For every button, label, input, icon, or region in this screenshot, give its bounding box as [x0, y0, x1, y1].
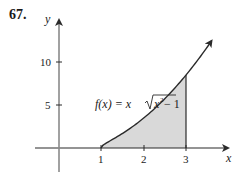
x-axis-label: x: [225, 151, 232, 165]
function-label-lhs: f(x) = x: [95, 97, 132, 111]
svg-text:1: 1: [98, 153, 104, 165]
svg-text:3: 3: [183, 153, 189, 165]
svg-text:5: 5: [45, 99, 51, 111]
shaded-area-region: [101, 75, 186, 148]
svg-text:2: 2: [141, 153, 147, 165]
y-axis-label: y: [44, 12, 51, 26]
function-label-radicand: x: [153, 97, 160, 111]
function-label-tail: − 1: [164, 97, 180, 111]
function-label: f(x) = x x 2 − 1: [95, 95, 180, 111]
svg-text:f(x) = x: f(x) = x: [95, 97, 132, 111]
function-graph: x y 1 2 3 5 10 f(x) = x x 2 − 1: [0, 0, 241, 179]
svg-text:10: 10: [40, 56, 52, 68]
